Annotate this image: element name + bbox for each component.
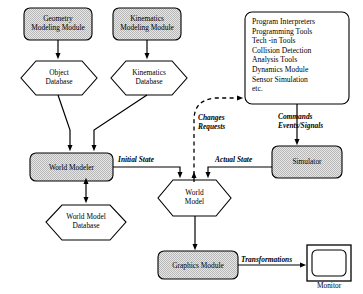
node-world-modeler [30,153,113,181]
node-monitor [307,245,351,281]
node-kinematics-database [111,61,187,95]
edge-actual-state [208,167,272,175]
node-simulator [272,146,342,178]
edge-changes-requests [194,98,240,182]
changes-requests-label: Changes Requests [198,113,225,132]
edge-object-database-to-world-modeler [58,95,70,148]
commands-events-signals-label: Commands Events/Signals [278,112,323,131]
node-object-database [21,61,97,95]
initial-state-label: Initial State [118,155,154,164]
node-world-model-database [46,205,126,240]
transformations-label: Transformations [241,255,292,264]
tools-list-text: Program Interpreters Programming Tools T… [252,17,315,93]
monitor-label: Monitor [307,281,351,290]
architecture-diagram: Geometry Modeling Module Kinematics Mode… [0,0,363,294]
edge-initial-state [113,167,180,175]
actual-state-label: Actual State [215,155,252,164]
node-graphics-module [158,251,238,279]
node-kinematics-modeling-module [113,8,181,40]
node-geometry-modeling-module [24,8,92,40]
edge-kinematics-database-to-world-modeler [94,95,147,148]
node-world-model [158,180,231,216]
tools-list-label: Program Interpreters Programming Tools T… [252,17,348,94]
